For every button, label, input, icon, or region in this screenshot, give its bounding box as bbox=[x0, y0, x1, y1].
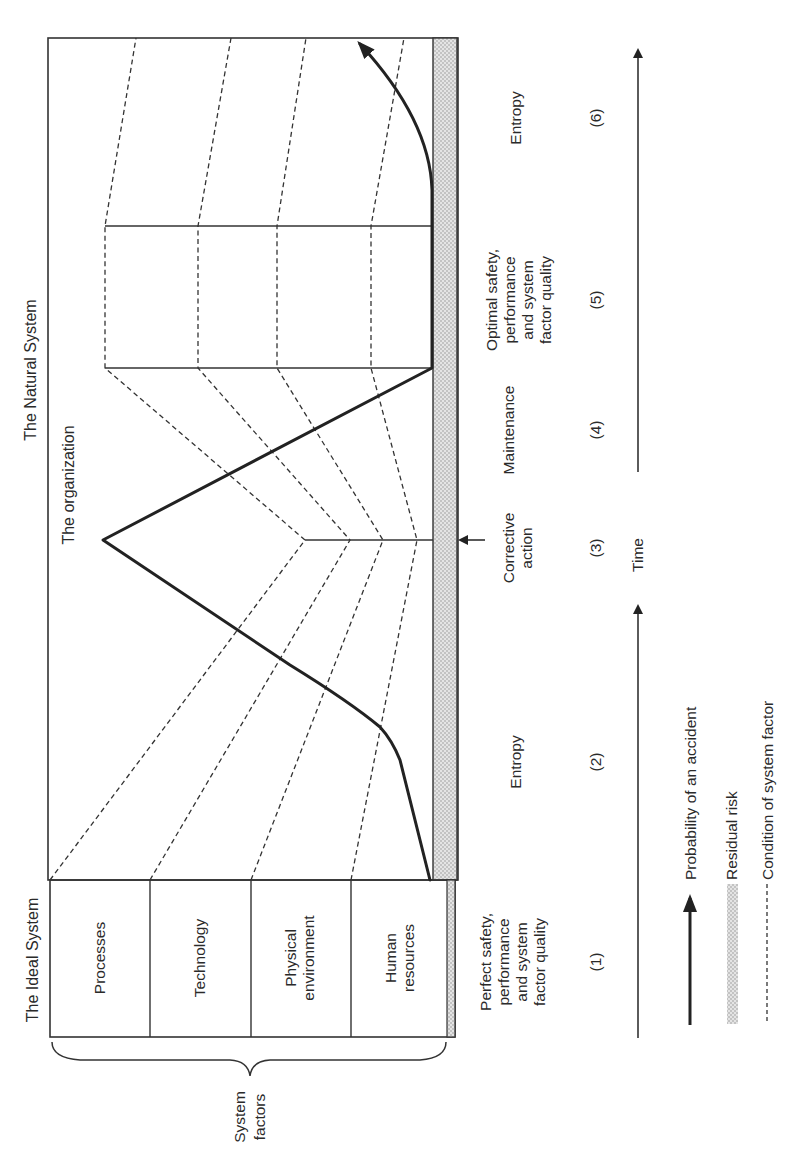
factor-physical-line2: environment bbox=[300, 915, 317, 1001]
phase-4-number: (4) bbox=[587, 421, 604, 440]
svg-text:performance: performance bbox=[495, 918, 512, 1005]
phase-1-number: (1) bbox=[587, 953, 604, 972]
legend: Probability of an accident Residual risk… bbox=[682, 701, 776, 1025]
factor-technology: Technology bbox=[191, 919, 208, 998]
factor-physical-line1: Physical bbox=[282, 929, 299, 987]
svg-text:Optimal safety,: Optimal safety, bbox=[483, 249, 500, 351]
svg-text:performance: performance bbox=[501, 256, 518, 343]
phase-2: Entropy (2) bbox=[507, 735, 604, 789]
system-factor-labels: Processes Technology Physical environmen… bbox=[91, 915, 417, 1001]
phase-3-number: (3) bbox=[587, 539, 604, 558]
system-factors-label-line1: System bbox=[231, 1091, 248, 1143]
accident-probability-line bbox=[103, 44, 432, 880]
phase-6-number: (6) bbox=[587, 109, 604, 128]
phase-6: Entropy (6) bbox=[507, 91, 604, 145]
svg-text:Maintenance: Maintenance bbox=[500, 386, 517, 475]
system-factors-brace bbox=[52, 1042, 446, 1076]
legend-residual-band-icon bbox=[727, 884, 738, 1024]
phase-4: Maintenance (4) bbox=[500, 386, 604, 475]
svg-text:Corrective: Corrective bbox=[500, 513, 517, 584]
state-lines bbox=[105, 226, 433, 540]
factor-human-line2: resources bbox=[400, 924, 417, 992]
legend-accident-label: Probability of an accident bbox=[682, 706, 699, 880]
factor-human-line1: Human bbox=[382, 933, 399, 983]
svg-text:Perfect safety,: Perfect safety, bbox=[477, 913, 494, 1011]
entropy-model-diagram: Time The Natural System The organization… bbox=[0, 0, 805, 1156]
svg-text:Entropy: Entropy bbox=[507, 735, 524, 789]
organization-title: The organization bbox=[60, 425, 77, 544]
phase-5: Optimal safety, performance and system f… bbox=[483, 249, 604, 351]
legend-condition-label: Condition of system factor bbox=[759, 701, 776, 880]
svg-text:and system: and system bbox=[513, 922, 530, 1001]
svg-text:Entropy: Entropy bbox=[507, 91, 524, 145]
natural-system-title: The Natural System bbox=[22, 299, 39, 440]
phase-1: Perfect safety, performance and system f… bbox=[477, 913, 604, 1011]
phase-3: Corrective action (3) bbox=[500, 513, 604, 584]
svg-text:and system: and system bbox=[519, 260, 536, 339]
system-factors-label-line2: factors bbox=[251, 1093, 268, 1140]
ideal-residual-band bbox=[447, 880, 455, 1037]
factor-processes: Processes bbox=[91, 922, 108, 995]
phase-2-number: (2) bbox=[587, 753, 604, 772]
svg-text:action: action bbox=[518, 527, 535, 568]
condition-lines bbox=[50, 38, 417, 880]
time-axis: Time bbox=[629, 50, 646, 1038]
residual-risk-band bbox=[433, 38, 457, 880]
svg-text:factor quality: factor quality bbox=[537, 256, 554, 344]
time-label: Time bbox=[629, 538, 646, 572]
ideal-system-title: The Ideal System bbox=[24, 898, 41, 1023]
svg-text:factor quality: factor quality bbox=[531, 918, 548, 1006]
phase-5-number: (5) bbox=[587, 291, 604, 310]
legend-residual-label: Residual risk bbox=[723, 791, 740, 880]
